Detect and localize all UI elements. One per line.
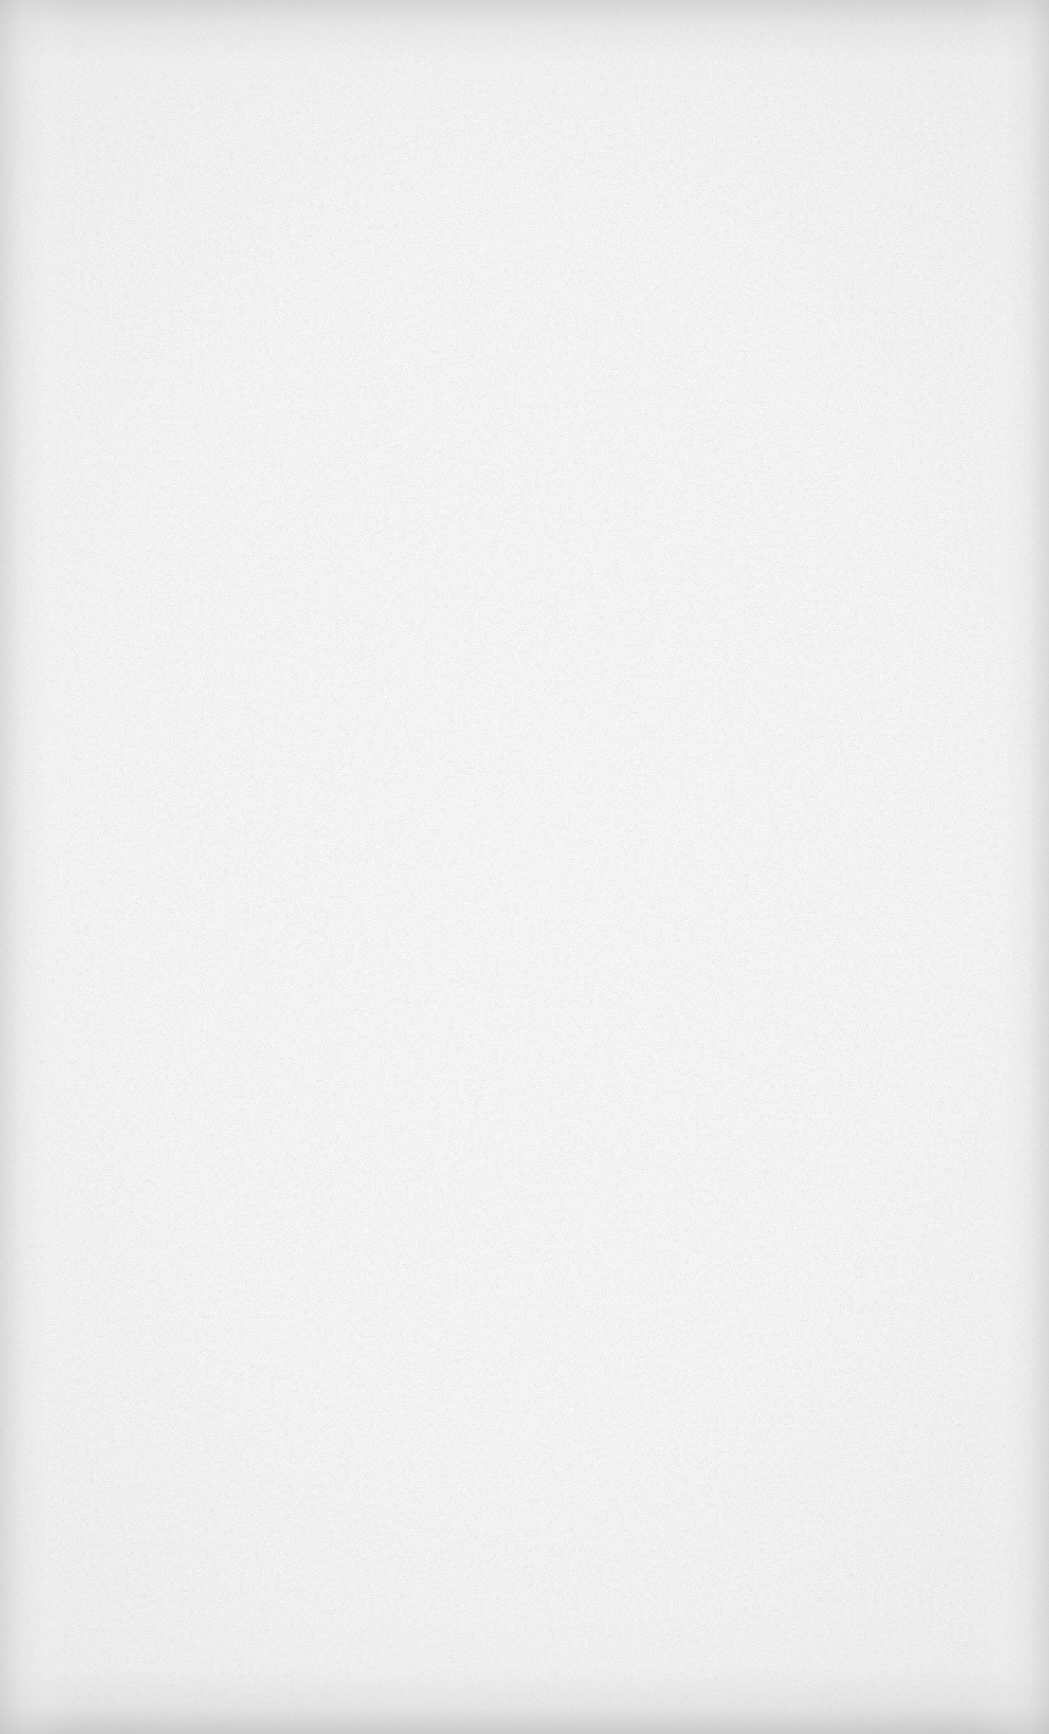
vignette-left	[0, 0, 78, 1734]
vignette-bottom	[0, 1602, 1049, 1734]
vignette-top	[0, 0, 1049, 118]
scanned-page	[0, 0, 1049, 1734]
vignette-right	[975, 0, 1049, 1734]
page-content-area	[78, 118, 975, 1602]
